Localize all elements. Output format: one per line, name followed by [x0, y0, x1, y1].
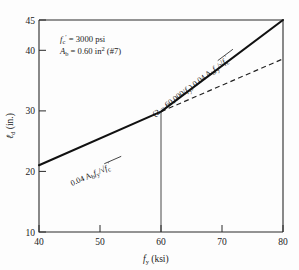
annotation-ab: Ab = 0.60 in2 (#7)	[59, 45, 121, 57]
x-axis-title-unit: (ksi)	[151, 254, 168, 265]
svg-text:0.04 Abfy/√fc′: 0.04 Abfy/√fc′	[68, 160, 113, 189]
y-ticks	[39, 20, 46, 232]
svg-text:ℓd (in.): ℓd (in.)	[5, 113, 16, 139]
x-tick-label-80: 80	[278, 237, 288, 247]
annotation-block: fc′ = 3000 psi Ab = 0.60 in2 (#7)	[59, 33, 121, 57]
y-axis-title-unit: (in.)	[5, 113, 16, 129]
development-length-chart: 45 40 30 20 10 40 50 60 70 80 fy (ksi) ℓ…	[0, 0, 299, 270]
x-tick-label-70: 70	[217, 237, 227, 247]
y-tick-label-40: 40	[26, 46, 36, 56]
x-tick-label-60: 60	[156, 237, 166, 247]
y-tick-label-45: 45	[26, 16, 36, 26]
x-tick-label-50: 50	[95, 237, 105, 247]
y-tick-label-30: 30	[26, 106, 36, 116]
y-axis-title: ℓd (in.)	[5, 113, 16, 139]
y-tick-label-20: 20	[26, 167, 36, 177]
svg-text:fy (ksi): fy (ksi)	[143, 254, 169, 265]
x-tick-label-40: 40	[34, 237, 44, 247]
annotation-fc: fc′ = 3000 psi	[60, 33, 106, 45]
y-tick-label-10: 10	[26, 228, 36, 238]
svg-text:(2 − 60,000/fy) 0.04 Abfy/√fc′: (2 − 60,000/fy) 0.04 Abfy/√fc′	[150, 53, 232, 119]
figure-container: 45 40 30 20 10 40 50 60 70 80 fy (ksi) ℓ…	[0, 0, 299, 270]
x-axis-title: fy (ksi)	[143, 254, 169, 265]
lower-branch-label: 0.04 Abfy/√fc′	[68, 155, 125, 189]
